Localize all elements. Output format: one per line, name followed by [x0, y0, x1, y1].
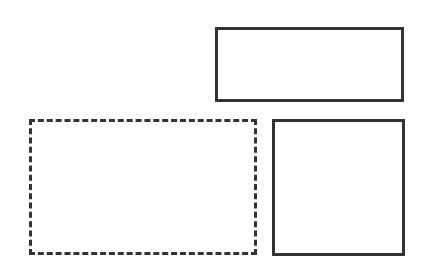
top-right-rectangle: [215, 27, 404, 102]
dashed-rectangle: [29, 119, 257, 255]
square: [272, 119, 405, 256]
